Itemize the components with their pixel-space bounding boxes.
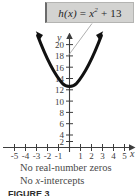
x-tick-label-1: 1 (78, 151, 83, 161)
y-tick-label-16: 16 (55, 63, 65, 73)
equation-equals: = (80, 7, 86, 19)
y-tick-label-10: 10 (55, 97, 65, 107)
equation-text: h(x) = x2 + 13 (58, 6, 121, 19)
y-tick-label-6: 6 (60, 119, 65, 129)
figure-container: y x 20 18 16 14 12 10 8 (0, 0, 139, 196)
figure-number-label: FIGURE 3 (8, 190, 70, 196)
y-axis-tick-labels: 20 18 16 14 12 10 8 6 4 2 (55, 40, 65, 147)
x-axis-tick-labels: -5 -4 -3 -2 -1 1 2 3 4 5 (11, 151, 128, 161)
equation-plus: + (101, 7, 107, 19)
equation-constant: 13 (110, 7, 121, 19)
x-tick-label-3: 3 (100, 151, 105, 161)
callout-leader-line (68, 24, 92, 57)
caption-no-x-intercepts: No x-intercepts (20, 175, 139, 186)
x-tick-label-2: 2 (89, 151, 94, 161)
equation-callout-box: h(x) = x2 + 13 (45, 2, 134, 23)
y-tick-label-8: 8 (60, 108, 65, 118)
equation-term-exponent: 2 (94, 6, 98, 14)
caption-line2-prefix: No (20, 175, 35, 186)
x-tick-label-5: 5 (122, 151, 127, 161)
x-tick-label-neg2: -2 (44, 151, 52, 161)
y-tick-label-18: 18 (55, 51, 65, 61)
x-tick-label-neg4: -4 (22, 151, 30, 161)
y-tick-label-12: 12 (55, 85, 64, 95)
x-axis-label: x (129, 148, 135, 159)
x-tick-label-neg3: -3 (33, 151, 41, 161)
equation-lhs: h(x) (58, 7, 77, 19)
y-tick-label-2: 2 (60, 137, 65, 147)
caption-no-real-number-zeros: No real-number zeros (20, 162, 139, 173)
x-tick-label-neg5: -5 (11, 151, 19, 161)
x-tick-label-neg1: -1 (55, 151, 63, 161)
caption-line2-suffix: -intercepts (40, 175, 84, 186)
y-tick-label-20: 20 (55, 40, 65, 50)
x-tick-label-4: 4 (111, 151, 116, 161)
